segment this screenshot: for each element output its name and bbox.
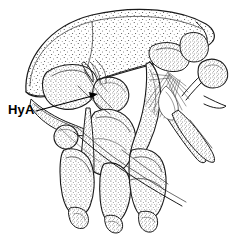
basal-article-outline bbox=[54, 125, 78, 149]
pereopod-left-propodus bbox=[60, 149, 94, 216]
right-segment-basal bbox=[180, 32, 208, 62]
label-hya: HyA bbox=[8, 102, 35, 117]
anatomical-line-drawing: HyA bbox=[0, 0, 242, 236]
eye-bulb bbox=[198, 59, 228, 88]
basal-article bbox=[54, 125, 78, 149]
figure-panel: HyA bbox=[0, 0, 242, 236]
